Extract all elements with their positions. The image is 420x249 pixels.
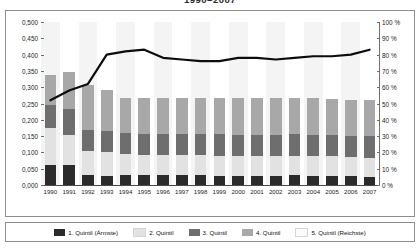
x-axis-tick-label: 1990 [44,188,58,195]
y-axis-left-tick-mark [41,185,44,186]
y-axis-right-tick-label: 80 % [382,51,397,58]
y-axis-left-tick-mark [41,22,44,23]
chart-title: 1990–2007 [0,0,420,5]
legend-swatch-icon [189,229,200,236]
y-axis-right-tick-label: 30 % [382,133,397,140]
y-axis-right-tick-mark [377,71,380,72]
x-axis-tick-label: 2007 [363,188,377,195]
y-axis-left-tick-label: 0,300 [22,84,38,91]
legend-label: 5. Quintil (Reichste) [311,229,365,236]
y-axis-left-tick-mark [41,169,44,170]
y-axis-left-tick-mark [41,136,44,137]
y-axis-right-tick-label: 10 % [382,165,397,172]
y-axis-left-tick-label: 0,350 [22,67,38,74]
y-axis-left-tick-label: 0,100 [22,149,38,156]
y-axis-right-tick-mark [377,38,380,39]
chart-root: 1990–2007 0,0000,0500,1000,1500,2000,250… [0,0,420,249]
line-series-layer [41,22,379,185]
y-axis-left-tick-label: 0,400 [22,51,38,58]
y-axis-left: 0,0000,0500,1000,1500,2000,2500,3000,350… [4,22,38,185]
y-axis-right-tick-label: 90 % [382,35,397,42]
x-axis-tick-label: 2003 [288,188,302,195]
x-axis-tick-label: 2004 [306,188,320,195]
y-axis-right-tick-mark [377,55,380,56]
x-axis-tick-label: 1992 [81,188,95,195]
y-axis-left-tick-mark [41,104,44,105]
y-axis-left-tick-mark [41,87,44,88]
legend-item[interactable]: 2. Quintil [133,228,173,237]
x-axis-tick-label: 2006 [344,188,358,195]
legend-swatch-icon [295,228,308,237]
y-axis-right-tick-mark [377,185,380,186]
legend-label: 1. Quintil (Ärmste) [68,229,118,236]
legend-label: 2. Quintil [149,229,173,236]
x-axis-tick-label: 1999 [213,188,227,195]
y-axis-left-tick-label: 0,150 [22,133,38,140]
y-axis-left-tick-label: 0,000 [22,182,38,189]
y-axis-left-tick-mark [41,120,44,121]
legend-label: 3. Quintil [203,229,227,236]
y-axis-left-tick-label: 0,050 [22,165,38,172]
legend-label: 4. Quintil [256,229,280,236]
y-axis-right-tick-mark [377,104,380,105]
legend-swatch-icon [54,229,65,236]
line-series [41,22,379,185]
x-axis-tick-label: 2002 [269,188,283,195]
y-axis-right-tick-mark [377,87,380,88]
x-axis-tick-label: 2005 [325,188,339,195]
y-axis-right-tick-label: 0 % [382,182,393,189]
y-axis-right: 0 %10 %20 %30 %40 %50 %60 %70 %80 %90 %1… [382,22,416,185]
y-axis-left-tick-mark [41,38,44,39]
x-axis-tick-label: 2000 [231,188,245,195]
legend-item[interactable]: 3. Quintil [189,229,227,236]
x-axis-tick-label: 1998 [194,188,208,195]
y-axis-right-tick-mark [377,120,380,121]
y-axis-left-tick-label: 0,500 [22,19,38,26]
legend-swatch-icon [133,228,146,237]
x-axis-tick-label: 1996 [156,188,170,195]
y-axis-left-tick-mark [41,152,44,153]
legend-swatch-icon [242,229,253,236]
y-axis-right-tick-label: 70 % [382,67,397,74]
y-axis-left-tick-label: 0,250 [22,100,38,107]
y-axis-right-tick-mark [377,136,380,137]
legend-item[interactable]: 1. Quintil (Ärmste) [54,229,118,236]
legend: 1. Quintil (Ärmste)2. Quintil3. Quintil4… [5,222,415,242]
x-axis-tick-label: 1995 [137,188,151,195]
x-axis-tick-label: 1997 [175,188,189,195]
y-axis-right-tick-label: 50 % [382,100,397,107]
y-axis-left-tick-mark [41,55,44,56]
y-axis-right-tick-mark [377,22,380,23]
y-axis-right-tick-mark [377,169,380,170]
y-axis-right-tick-label: 20 % [382,149,397,156]
x-axis-tick-label: 1991 [62,188,76,195]
y-axis-right-tick-label: 60 % [382,84,397,91]
x-axis-tick-label: 1994 [119,188,133,195]
legend-item[interactable]: 5. Quintil (Reichste) [295,228,365,237]
y-axis-left-tick-label: 0,200 [22,116,38,123]
x-axis-tick-label: 2001 [250,188,264,195]
y-axis-left-tick-label: 0,450 [22,35,38,42]
axis-line-bottom [41,185,380,186]
x-axis-tick-label: 1993 [100,188,114,195]
y-axis-right-tick-mark [377,152,380,153]
y-axis-right-tick-label: 100 % [382,19,400,26]
y-axis-right-tick-label: 40 % [382,116,397,123]
x-axis: 1990199119921993199419951996199719981999… [41,188,379,200]
y-axis-left-tick-mark [41,71,44,72]
legend-item[interactable]: 4. Quintil [242,229,280,236]
